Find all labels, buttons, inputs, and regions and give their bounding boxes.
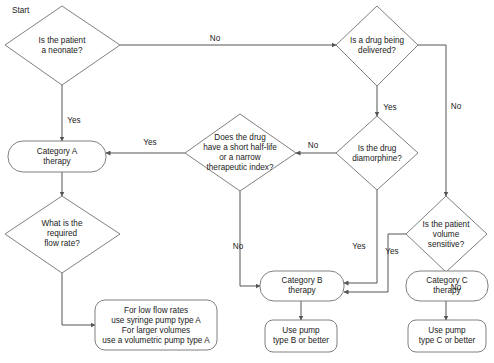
edge-label-halflife-yes: Yes bbox=[143, 138, 156, 147]
svg-text:Is the patient: Is the patient bbox=[39, 36, 87, 45]
svg-text:use a volumetric pump type A: use a volumetric pump type A bbox=[102, 336, 210, 345]
start-label: Start bbox=[12, 6, 30, 15]
svg-text:diamorphine?: diamorphine? bbox=[352, 154, 402, 163]
svg-text:required: required bbox=[47, 229, 77, 238]
flowchart-page: Start Is the patient a neonate? Is a dru… bbox=[0, 0, 494, 363]
svg-text:Is the drug: Is the drug bbox=[358, 144, 397, 153]
edge-label-diamorphine-no: No bbox=[308, 141, 319, 150]
decision-neonate-text: Is the patient a neonate? bbox=[39, 36, 87, 55]
svg-text:For larger volumes: For larger volumes bbox=[122, 326, 190, 335]
svg-text:Category B: Category B bbox=[282, 276, 323, 285]
edge-diamorphine-yes bbox=[344, 190, 377, 283]
svg-text:or a narrow: or a narrow bbox=[219, 153, 260, 162]
svg-text:What is the: What is the bbox=[42, 219, 83, 228]
svg-text:Is the patient: Is the patient bbox=[423, 220, 471, 229]
svg-text:volume: volume bbox=[433, 230, 460, 239]
svg-text:therapeutic index?: therapeutic index? bbox=[207, 163, 274, 172]
svg-text:Category A: Category A bbox=[37, 147, 78, 156]
svg-text:therapy: therapy bbox=[43, 157, 71, 166]
svg-text:have a short half-life: have a short half-life bbox=[203, 143, 277, 152]
edge-label-halflife-no: No bbox=[233, 242, 244, 251]
edge-label-volume-no: No bbox=[451, 283, 462, 292]
edge-halflife-no bbox=[240, 191, 260, 286]
svg-text:Is a drug being: Is a drug being bbox=[350, 36, 405, 45]
flowchart-canvas: Start Is the patient a neonate? Is a dru… bbox=[0, 0, 494, 363]
decision-flow-rate-text: What is the required flow rate? bbox=[42, 219, 83, 248]
edge-label-drugdelivered-no: No bbox=[451, 102, 462, 111]
svg-text:Does the drug: Does the drug bbox=[214, 133, 266, 142]
edge-drugdelivered-no bbox=[418, 45, 446, 196]
edge-label-diamorphine-yes: Yes bbox=[352, 242, 365, 251]
edge-label-volume-yes: Yes bbox=[385, 247, 398, 256]
svg-text:Category C: Category C bbox=[426, 276, 467, 285]
edge-label-neonate-yes: Yes bbox=[67, 116, 80, 125]
decision-diamorphine-text: Is the drug diamorphine? bbox=[352, 144, 402, 163]
svg-text:sensitive?: sensitive? bbox=[428, 240, 465, 249]
svg-text:Use pump: Use pump bbox=[428, 326, 466, 335]
svg-text:delivered?: delivered? bbox=[358, 46, 396, 55]
edge-label-neonate-no: No bbox=[210, 34, 221, 43]
svg-text:flow rate?: flow rate? bbox=[44, 239, 80, 248]
svg-text:Use pump: Use pump bbox=[282, 326, 320, 335]
svg-text:For low flow rates: For low flow rates bbox=[124, 306, 188, 315]
edge-flowrate-pumpa bbox=[62, 273, 95, 325]
svg-text:therapy: therapy bbox=[288, 286, 316, 295]
svg-text:type B or better: type B or better bbox=[273, 336, 329, 345]
svg-text:type C or better: type C or better bbox=[419, 336, 476, 345]
svg-text:a neonate?: a neonate? bbox=[42, 46, 83, 55]
edge-label-drugdelivered-yes: Yes bbox=[383, 103, 396, 112]
svg-text:use syringe pump type A: use syringe pump type A bbox=[111, 316, 201, 325]
